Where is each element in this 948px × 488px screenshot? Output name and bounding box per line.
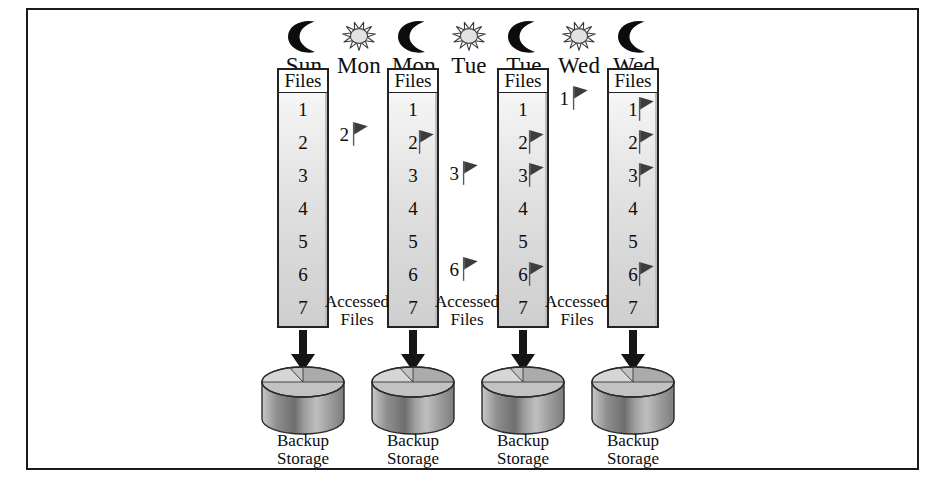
file-number: 1	[298, 99, 308, 120]
file-row: 7	[609, 291, 657, 324]
file-number: 4	[408, 198, 418, 219]
file-row: 1	[389, 93, 437, 126]
file-number: 5	[408, 231, 418, 252]
file-row: 2	[609, 126, 657, 159]
accessed-column-mon: 2AccessedFiles	[322, 0, 392, 340]
accessed-file-entry: 2	[336, 118, 376, 150]
accessed-files-label-line1: Accessed	[322, 293, 392, 311]
file-row: 2	[389, 126, 437, 159]
backup-label-line1: Backup	[584, 432, 682, 450]
file-column-wed: Files1234567	[607, 68, 659, 328]
accessed-files-label-line2: Files	[322, 311, 392, 329]
diagram-stage: SunMonMonTueTueWedWedFiles1234567Files12…	[0, 0, 948, 488]
file-number: 5	[298, 231, 308, 252]
files-header: Files	[609, 70, 657, 93]
flag-icon	[349, 119, 371, 149]
diagram-canvas: SunMonMonTueTueWedWedFiles1234567Files12…	[0, 0, 948, 488]
file-row: 2	[279, 126, 327, 159]
file-number: 4	[298, 198, 308, 219]
file-row: 5	[279, 225, 327, 258]
file-row: 7	[279, 291, 327, 324]
flag-icon	[636, 94, 656, 124]
file-number: 6	[408, 264, 418, 285]
file-number: 2	[298, 132, 308, 153]
file-number: 4	[518, 198, 528, 219]
backup-label-line2: Storage	[474, 450, 572, 468]
backup-label-line2: Storage	[364, 450, 462, 468]
backup-label-line1: Backup	[254, 432, 352, 450]
files-header: Files	[499, 70, 547, 93]
flag-icon	[526, 127, 546, 157]
accessed-files-label: AccessedFiles	[542, 293, 612, 329]
flag-icon	[636, 127, 656, 157]
accessed-file-entry: 6	[446, 253, 486, 285]
flag-icon	[416, 127, 436, 157]
accessed-file-number: 3	[446, 164, 459, 183]
flag-icon	[526, 160, 546, 190]
file-number: 6	[298, 264, 308, 285]
file-row: 3	[499, 159, 547, 192]
file-row: 1	[609, 93, 657, 126]
file-number: 7	[408, 297, 418, 318]
accessed-column-tue: 36AccessedFiles	[432, 0, 502, 340]
accessed-files-label-line1: Accessed	[542, 293, 612, 311]
file-number: 4	[628, 198, 638, 219]
file-row: 1	[499, 93, 547, 126]
accessed-file-number: 1	[556, 89, 569, 108]
file-number: 5	[518, 231, 528, 252]
accessed-file-entry: 1	[556, 82, 596, 114]
file-row: 4	[389, 192, 437, 225]
accessed-file-number: 6	[446, 260, 459, 279]
flag-icon	[526, 259, 546, 289]
file-row: 3	[609, 159, 657, 192]
flag-icon	[459, 158, 481, 188]
backup-storage-sun	[260, 365, 346, 439]
file-number: 5	[628, 231, 638, 252]
file-row: 6	[609, 258, 657, 291]
accessed-files-label: AccessedFiles	[432, 293, 502, 329]
backup-storage-tue	[480, 365, 566, 439]
file-number: 3	[408, 165, 418, 186]
file-row: 6	[389, 258, 437, 291]
file-row: 7	[389, 291, 437, 324]
backup-label-line1: Backup	[364, 432, 462, 450]
accessed-column-wed: 1AccessedFiles	[542, 0, 612, 340]
file-number: 7	[628, 297, 638, 318]
file-number: 1	[408, 99, 418, 120]
backup-storage-label: BackupStorage	[474, 432, 572, 468]
backup-storage-label: BackupStorage	[254, 432, 352, 468]
file-row: 6	[279, 258, 327, 291]
file-row: 6	[499, 258, 547, 291]
backup-label-line2: Storage	[584, 450, 682, 468]
file-row: 1	[279, 93, 327, 126]
file-row: 4	[499, 192, 547, 225]
accessed-file-entry: 3	[446, 157, 486, 189]
flag-icon	[636, 160, 656, 190]
flag-icon	[636, 259, 656, 289]
accessed-files-label-line1: Accessed	[432, 293, 502, 311]
file-row: 4	[609, 192, 657, 225]
backup-label-line1: Backup	[474, 432, 572, 450]
accessed-file-number: 2	[336, 125, 349, 144]
file-row: 5	[609, 225, 657, 258]
flag-icon	[569, 83, 591, 113]
file-row: 2	[499, 126, 547, 159]
file-number: 7	[298, 297, 308, 318]
files-header: Files	[279, 70, 327, 93]
backup-storage-wed	[590, 365, 676, 439]
accessed-files-label-line2: Files	[432, 311, 502, 329]
backup-storage-label: BackupStorage	[584, 432, 682, 468]
file-row: 3	[279, 159, 327, 192]
file-row: 5	[389, 225, 437, 258]
file-row: 3	[389, 159, 437, 192]
file-number: 3	[298, 165, 308, 186]
file-row: 5	[499, 225, 547, 258]
backup-label-line2: Storage	[254, 450, 352, 468]
backup-storage-mon	[370, 365, 456, 439]
file-row: 7	[499, 291, 547, 324]
files-header: Files	[389, 70, 437, 93]
file-number: 1	[518, 99, 528, 120]
file-row: 4	[279, 192, 327, 225]
backup-storage-label: BackupStorage	[364, 432, 462, 468]
accessed-files-label: AccessedFiles	[322, 293, 392, 329]
